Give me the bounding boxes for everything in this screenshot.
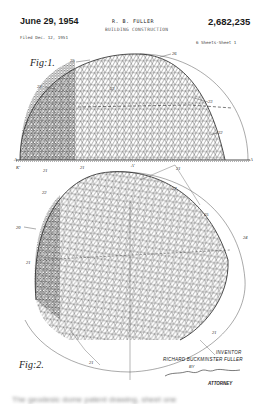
attorney-label: ATTORNEY [208, 381, 232, 386]
caption: The geodesic dome patent drawing, sheet … [12, 395, 257, 404]
attorney-signature [0, 0, 265, 404]
